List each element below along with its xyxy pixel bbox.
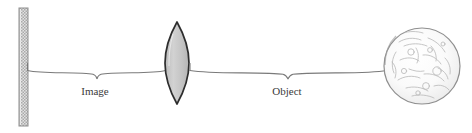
image-label: Image — [81, 85, 109, 97]
optics-diagram: Image Object — [0, 0, 472, 133]
moon-disc — [384, 28, 460, 104]
moon-object — [384, 28, 460, 104]
screen-wall — [19, 8, 28, 126]
object-label: Object — [272, 85, 301, 97]
converging-lens — [165, 22, 189, 104]
optics-diagram-canvas: Image Object — [0, 0, 472, 133]
image-distance-brace — [28, 63, 166, 79]
object-distance-brace — [190, 64, 387, 79]
